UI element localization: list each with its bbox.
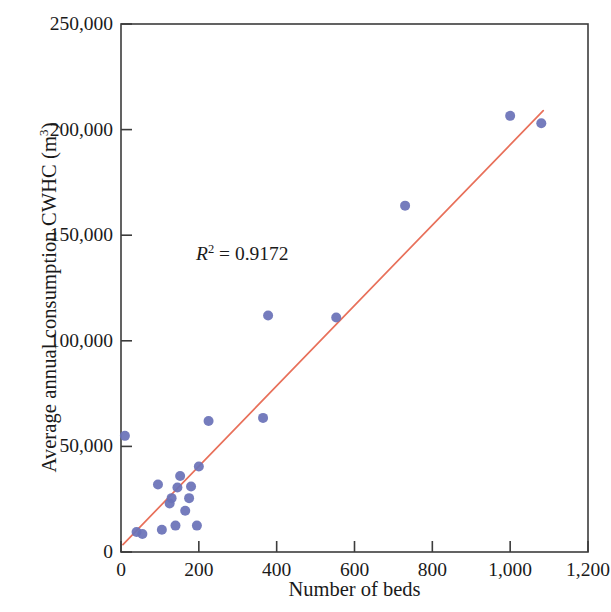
axes-frame	[121, 24, 588, 552]
data-point	[192, 521, 202, 531]
r-squared-equals: =	[214, 243, 235, 264]
y-tick-label: 250,000	[9, 14, 113, 34]
x-tick-label: 0	[81, 560, 161, 580]
x-tick-label: 200	[159, 560, 239, 580]
y-tick-label: 0	[9, 542, 113, 562]
data-point	[258, 413, 268, 423]
data-point	[505, 111, 515, 121]
data-point	[194, 461, 204, 471]
r-squared-value: 0.9172	[235, 243, 289, 264]
x-axis-title: Number of beds	[121, 578, 588, 601]
data-point	[331, 313, 341, 323]
x-tick-label: 800	[392, 560, 472, 580]
axis-ticks	[121, 24, 588, 552]
y-axis-title: Average annual consumption CWHC (m3)	[38, 63, 61, 533]
y-axis-title-close: )	[38, 122, 60, 129]
trend-line	[123, 111, 543, 545]
data-point	[400, 201, 410, 211]
data-point	[180, 506, 190, 516]
data-point	[536, 118, 546, 128]
x-tick-label: 1,000	[470, 560, 550, 580]
data-point	[186, 482, 196, 492]
scatter-chart-figure: 050,000100,000150,000200,000250,000 0200…	[0, 0, 611, 612]
data-point	[153, 479, 163, 489]
y-tick-label: 150,000	[9, 225, 113, 245]
r-squared-symbol: R	[196, 243, 208, 264]
data-point	[167, 493, 177, 503]
x-tick-label: 1,200	[548, 560, 611, 580]
y-tick-label: 200,000	[9, 120, 113, 140]
y-axis-title-exponent: 3	[36, 129, 51, 136]
data-point	[184, 493, 194, 503]
r-squared-annotation: R2 = 0.9172	[196, 243, 289, 265]
y-tick-label: 100,000	[9, 331, 113, 351]
y-axis-title-text: Average annual consumption CWHC (m	[38, 136, 60, 473]
data-point	[157, 525, 167, 535]
data-point	[172, 483, 182, 493]
data-point	[204, 416, 214, 426]
data-point	[137, 529, 147, 539]
data-points-group	[120, 111, 546, 539]
data-point	[175, 471, 185, 481]
data-point	[120, 431, 130, 441]
y-tick-label: 50,000	[9, 436, 113, 456]
x-tick-label: 600	[315, 560, 395, 580]
data-point	[170, 521, 180, 531]
data-point	[263, 310, 273, 320]
x-tick-label: 400	[237, 560, 317, 580]
